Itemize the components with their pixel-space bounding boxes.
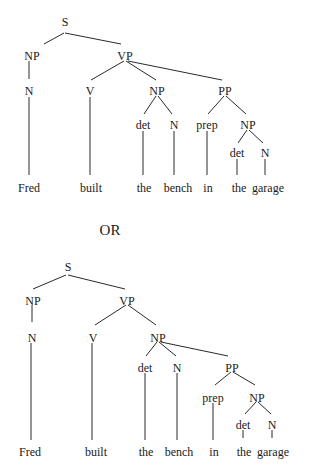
tree-edge: [208, 96, 224, 114]
syntax-tree-diagram: SNPVPNVNPPPdetNprepNPdetNFredbuilttheben…: [0, 0, 311, 471]
tree-edge: [95, 305, 126, 325]
node-label-vp: VP: [119, 294, 135, 308]
parse-tree-1: SNPVPNVNPPPdetNprepNPdetNFredbuilttheben…: [18, 15, 284, 195]
tree-edge: [65, 33, 121, 44]
tree-edge: [33, 275, 66, 289]
node-label-n: N: [170, 118, 179, 132]
leaf-word: bench: [164, 181, 193, 195]
or-separator-label: OR: [100, 222, 121, 238]
node-label-np: NP: [24, 49, 40, 63]
node-label-np: NP: [149, 84, 165, 98]
node-label-n: N: [25, 84, 34, 98]
leaf-word: built: [80, 181, 103, 195]
tree-edge: [68, 275, 125, 289]
leaf-word: the: [232, 181, 247, 195]
leaf-word: Fred: [18, 181, 40, 195]
tree-edge: [91, 61, 124, 80]
leaf-word: the: [137, 181, 152, 195]
tree-edge: [226, 96, 246, 114]
node-label-n: N: [261, 146, 270, 160]
node-label-np: NP: [249, 391, 265, 405]
node-label-n: N: [268, 418, 277, 432]
leaf-word: garage: [252, 181, 284, 195]
node-label-pp: PP: [225, 361, 239, 375]
node-label-det: det: [136, 118, 151, 132]
node-label-v: V: [89, 331, 98, 345]
node-label-np: NP: [240, 118, 256, 132]
node-label-n: N: [173, 361, 182, 375]
tree-edge: [128, 305, 156, 325]
tree-edge: [144, 96, 156, 114]
leaf-word: garage: [257, 445, 289, 459]
leaf-word: the: [237, 445, 252, 459]
node-label-v: V: [86, 84, 95, 98]
node-label-s: S: [65, 260, 72, 274]
leaf-word: in: [203, 181, 212, 195]
parse-tree-2: SNPVPNVNPdetNPPprepNPdetNFredbuilttheben…: [19, 260, 289, 459]
node-label-det: det: [138, 361, 153, 375]
node-label-vp: VP: [117, 49, 133, 63]
node-label-prep: prep: [196, 118, 217, 132]
leaf-word: in: [209, 445, 218, 459]
tree-edge: [158, 96, 172, 114]
tree-edge: [161, 342, 228, 356]
node-label-np: NP: [25, 294, 41, 308]
node-label-det: det: [236, 418, 251, 432]
leaf-word: bench: [165, 445, 194, 459]
node-label-np: NP: [150, 331, 166, 345]
leaf-word: built: [85, 445, 108, 459]
node-label-pp: PP: [218, 84, 232, 98]
node-label-det: det: [230, 146, 245, 160]
tree-edge: [128, 61, 222, 80]
node-label-prep: prep: [202, 391, 223, 405]
node-label-s: S: [62, 15, 69, 29]
node-label-n: N: [28, 331, 37, 345]
leaf-word: the: [139, 445, 154, 459]
tree-edge: [44, 33, 64, 44]
leaf-word: Fred: [19, 445, 41, 459]
